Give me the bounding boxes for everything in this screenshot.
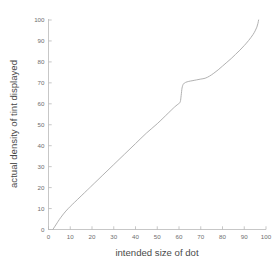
x-tick-label: 60 <box>176 233 183 240</box>
x-tick-label: 70 <box>197 233 204 240</box>
x-axis-title: intended size of dot <box>115 247 199 258</box>
x-tick-label: 90 <box>241 233 248 240</box>
x-tick-label: 0 <box>47 233 51 240</box>
y-tick-label: 60 <box>38 100 45 107</box>
y-tick-label: 70 <box>38 79 45 86</box>
chart-figure: 0102030405060708090100 01020304050607080… <box>0 0 273 264</box>
y-axis-ticks <box>49 20 52 230</box>
x-tick-label: 40 <box>132 233 139 240</box>
y-tick-label: 90 <box>38 37 45 44</box>
y-tick-label: 20 <box>38 184 45 191</box>
data-series-line <box>53 20 259 230</box>
x-tick-label: 50 <box>154 233 161 240</box>
x-tick-label: 100 <box>261 233 272 240</box>
y-tick-label: 50 <box>38 121 45 128</box>
x-tick-label: 80 <box>219 233 226 240</box>
x-axis-ticks <box>49 226 267 229</box>
y-axis-tick-labels: 0102030405060708090100 <box>34 16 45 233</box>
x-tick-label: 10 <box>67 233 74 240</box>
y-tick-label: 40 <box>38 142 45 149</box>
y-tick-label: 10 <box>38 205 45 212</box>
y-axis-title: actual density of tint displayed <box>8 60 19 188</box>
y-tick-label: 30 <box>38 163 45 170</box>
y-tick-label: 0 <box>41 226 45 233</box>
x-axis-tick-labels: 0102030405060708090100 <box>47 233 272 240</box>
line-chart: 0102030405060708090100 01020304050607080… <box>0 0 273 264</box>
x-tick-label: 30 <box>110 233 117 240</box>
y-tick-label: 100 <box>34 16 45 23</box>
y-tick-label: 80 <box>38 58 45 65</box>
x-tick-label: 20 <box>89 233 96 240</box>
